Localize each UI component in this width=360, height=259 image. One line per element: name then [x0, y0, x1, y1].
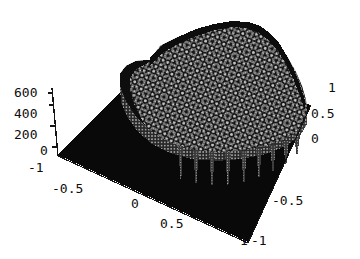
- z-tick-label: 600: [14, 85, 37, 100]
- z-tick-label: 200: [14, 127, 37, 142]
- z-tick-label: 400: [14, 106, 37, 121]
- y-tick-label: -1: [251, 233, 267, 248]
- surface-plot-figure: 600 400 200 0 -1 -0.5 0 0.5 1 -1 -0.5 0 …: [0, 0, 360, 259]
- x-tick-label: 0: [131, 196, 139, 211]
- x-tick-label: -1: [28, 160, 44, 175]
- z-tick-label: 0: [40, 143, 48, 158]
- y-tick-label: 0.5: [311, 106, 334, 121]
- y-tick-label: 0: [311, 131, 319, 146]
- x-tick-label: -0.5: [52, 181, 83, 196]
- y-tick-label: 1: [328, 80, 336, 95]
- x-tick-label: 1: [240, 233, 248, 248]
- x-tick-label: 0.5: [160, 216, 183, 231]
- y-tick-label: -0.5: [272, 193, 303, 208]
- plot-canvas: 600 400 200 0 -1 -0.5 0 0.5 1 -1 -0.5 0 …: [0, 0, 360, 259]
